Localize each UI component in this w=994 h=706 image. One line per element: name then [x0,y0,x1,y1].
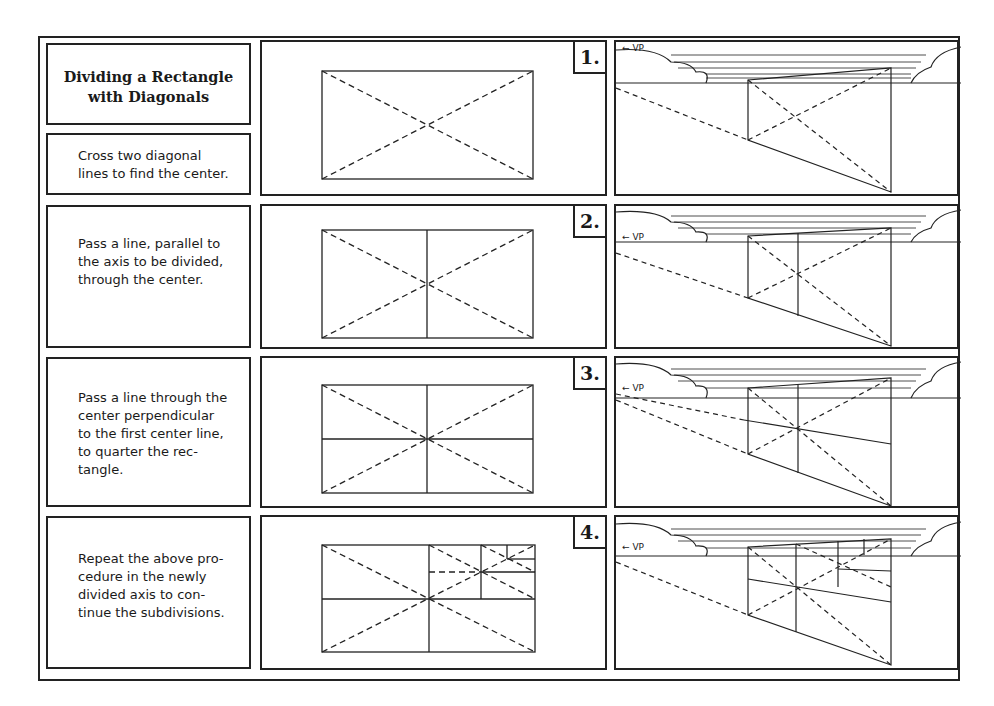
perspective-diagram [616,517,961,672]
vanishing-point-label: ← VP [622,43,644,53]
text-line: divided axis to con- [78,586,239,604]
step-4-perspective-panel: ← VP [614,515,959,670]
step-3-text-box: Pass a line through the center perpendic… [46,357,251,507]
title-box: Dividing a Rectangle with Diagonals [46,43,251,125]
flat-rectangle-diagram [262,358,609,510]
text-line: tangle. [78,461,239,479]
step-1-perspective-panel: ← VP [614,40,959,196]
text-line: tinue the subdivisions. [78,604,239,622]
title-line-1: Dividing a Rectangle [48,67,249,87]
vanishing-point-label: ← VP [622,383,644,393]
perspective-diagram [616,42,961,198]
step-4-text-box: Repeat the above pro- cedure in the newl… [46,516,251,669]
text-line: Pass a line, parallel to [78,235,239,253]
step-1-flat-panel: 1. [260,40,607,196]
diagram-title: Dividing a Rectangle with Diagonals [48,45,249,107]
text-line: lines to find the center. [78,165,239,183]
flat-rectangle-diagram [262,517,609,672]
text-line: cedure in the newly [78,568,239,586]
text-line: Repeat the above pro- [78,550,239,568]
perspective-diagram [616,358,961,510]
step-4-flat-panel: 4. [260,515,607,670]
text-line: the axis to be divided, [78,253,239,271]
vanishing-point-label: ← VP [622,542,644,552]
text-line: Pass a line through the [78,389,239,407]
text-line: to the first center line, [78,425,239,443]
text-line: to quarter the rec- [78,443,239,461]
step-4-text: Repeat the above pro- cedure in the newl… [48,518,249,622]
flat-rectangle-diagram [262,206,609,351]
text-line: through the center. [78,271,239,289]
flat-rectangle-diagram [262,42,609,198]
step-3-text: Pass a line through the center perpendic… [48,359,249,479]
step-3-perspective-panel: ← VP [614,356,959,508]
perspective-diagram [616,206,961,351]
step-3-flat-panel: 3. [260,356,607,508]
step-2-text: Pass a line, parallel to the axis to be … [48,207,249,289]
text-line: Cross two diagonal [78,147,239,165]
vanishing-point-label: ← VP [622,232,644,242]
step-2-perspective-panel: ← VP [614,204,959,349]
step-1-text: Cross two diagonal lines to find the cen… [48,135,249,183]
step-1-text-box: Cross two diagonal lines to find the cen… [46,133,251,195]
step-2-text-box: Pass a line, parallel to the axis to be … [46,205,251,348]
title-line-2: with Diagonals [48,87,249,107]
text-line: center perpendicular [78,407,239,425]
step-2-flat-panel: 2. [260,204,607,349]
